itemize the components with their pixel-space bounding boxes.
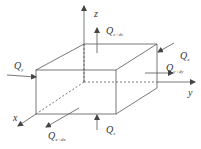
label-q-y: Qy xyxy=(14,60,24,72)
arrow-q-y xyxy=(7,75,36,77)
x-axis xyxy=(18,114,36,126)
x-axis-label: x xyxy=(12,112,18,123)
hidden-edges xyxy=(36,44,157,114)
arrow-q-x xyxy=(158,43,174,52)
z-axis-label: z xyxy=(93,8,98,19)
label-q-x: Qx xyxy=(180,50,190,62)
control-volume-diagram: z y x Qz+dz Qx Qy+dy Qy Qx+dx Qz xyxy=(0,0,201,149)
cuboid xyxy=(36,44,157,114)
label-q-z: Qz xyxy=(106,124,115,136)
y-axis-label: y xyxy=(187,87,193,98)
label-q-y-dy: Qy+dy xyxy=(166,62,184,74)
label-q-x-dx: Qx+dx xyxy=(48,130,66,142)
label-q-z-dz: Qz+dz xyxy=(106,25,123,37)
arrow-q-x-dx xyxy=(46,108,79,127)
